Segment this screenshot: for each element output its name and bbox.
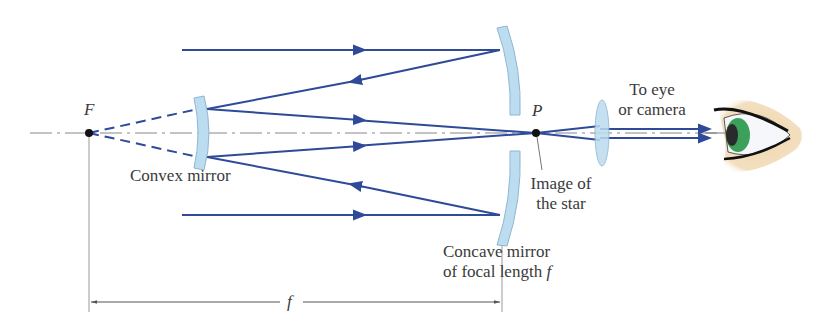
virtual-ray-top xyxy=(89,109,198,133)
focal-point-label: F xyxy=(84,100,94,120)
focal-point-f xyxy=(85,129,93,137)
image-of-star-line2: the star xyxy=(522,194,600,214)
focal-length-var: f xyxy=(546,262,551,281)
image-point-label: P xyxy=(532,101,542,121)
dimension-label: f xyxy=(287,292,292,312)
reflected-ray-top xyxy=(207,50,500,109)
concave-mirror-top xyxy=(497,26,520,115)
eyepiece-lens xyxy=(595,100,609,166)
reflected-ray-bottom xyxy=(207,157,500,215)
converging-ray-bottom xyxy=(207,126,600,157)
eye-icon xyxy=(705,100,802,172)
concave-mirror-line2: of focal length f xyxy=(443,262,551,282)
virtual-ray-bottom xyxy=(89,133,198,157)
concave-mirror-label: Concave mirror of focal length f xyxy=(443,242,551,282)
to-eye-label: To eye or camera xyxy=(610,80,694,120)
telescope-diagram xyxy=(0,0,836,330)
to-eye-line1: To eye xyxy=(610,80,694,100)
image-leader-line xyxy=(537,137,542,170)
convex-mirror-label: Convex mirror xyxy=(130,166,231,186)
concave-mirror-line1: Concave mirror xyxy=(443,242,551,262)
to-eye-line2: or camera xyxy=(610,100,694,120)
image-of-star-label: Image of the star xyxy=(522,174,600,214)
concave-mirror-bottom xyxy=(497,151,520,246)
convex-mirror xyxy=(194,96,209,170)
image-point-p xyxy=(532,129,540,137)
concave-mirror-line2-text: of focal length xyxy=(443,262,546,281)
image-of-star-line1: Image of xyxy=(522,174,600,194)
